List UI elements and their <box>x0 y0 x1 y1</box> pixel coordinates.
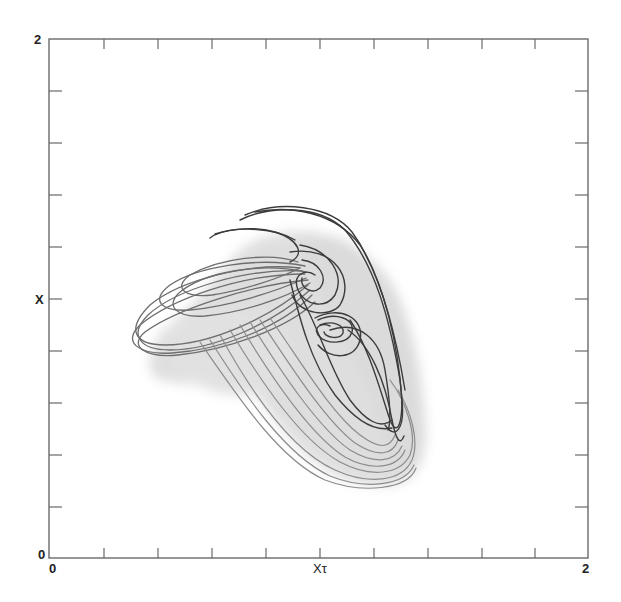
y-min-label: 0 <box>38 548 45 561</box>
attractor-plot <box>0 0 621 602</box>
x-min-label: 0 <box>49 562 56 575</box>
y-axis-label: X <box>35 293 44 306</box>
x-max-label: 2 <box>582 562 589 575</box>
y-max-label: 2 <box>34 33 41 46</box>
x-axis-label: Xτ <box>313 562 327 575</box>
